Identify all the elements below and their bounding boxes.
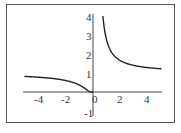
x-tick-label: 2: [117, 93, 123, 105]
x-tick-label: -4: [34, 93, 44, 105]
y-tick-label: 4: [86, 11, 92, 23]
x-tick-label: 4: [144, 93, 150, 105]
chart-plot: -4 -2 0 2 4 4 3 2 1 -1: [0, 0, 181, 133]
y-tick-label: -1: [84, 107, 93, 119]
right-branch-curve: [103, 16, 162, 69]
x-tick-label: -2: [61, 93, 70, 105]
y-tick-label: 3: [86, 30, 92, 42]
left-branch-curve: [25, 76, 94, 92]
y-tick-label: 2: [86, 49, 92, 61]
y-tick-label: 1: [86, 68, 92, 80]
x-tick-label: 0: [92, 93, 98, 105]
